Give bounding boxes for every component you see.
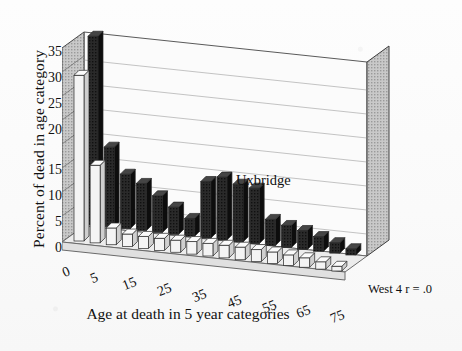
bar (298, 225, 313, 249)
y-axis-tick-labels: 35 30 25 20 15 10 5 0 (34, 0, 62, 351)
bar (201, 176, 216, 238)
bar (281, 220, 296, 247)
bar (187, 237, 202, 255)
bar (171, 235, 186, 252)
x-tick-15: 15 (120, 274, 139, 294)
x-tick-5: 5 (88, 270, 100, 287)
chart-svg (62, 28, 392, 290)
x-tick-35: 35 (190, 286, 209, 306)
series-label-uxbridge: Uxbridge (236, 172, 291, 189)
bar (249, 183, 264, 244)
bar (104, 142, 119, 227)
y-tick-10: 10 (36, 189, 62, 203)
bar (265, 214, 280, 245)
bar (120, 169, 135, 229)
x-tick-25: 25 (155, 280, 174, 300)
y-tick-0: 0 (36, 241, 62, 255)
bar (330, 238, 345, 253)
bar (122, 229, 137, 247)
plot-area (62, 28, 392, 290)
bar (155, 233, 170, 250)
figure-canvas: Percent of dead in age category 35 30 25… (0, 0, 462, 351)
bar (314, 232, 329, 252)
right-side-wall (367, 46, 389, 256)
y-tick-20: 20 (36, 123, 62, 137)
bar (138, 231, 153, 248)
y-tick-30: 30 (36, 71, 62, 85)
bar (74, 70, 89, 241)
bar (217, 172, 232, 240)
y-tick-5: 5 (36, 215, 62, 229)
bar (90, 160, 105, 243)
bar (185, 213, 200, 236)
bar (169, 202, 184, 234)
series-label-west4: West 4 r = .0 (368, 282, 432, 297)
y-tick-35: 35 (36, 45, 62, 59)
bar (106, 223, 121, 245)
bar (136, 178, 151, 230)
x-axis-tick-labels: 0 5 15 25 35 45 55 65 75 (62, 255, 402, 310)
x-tick-0: 0 (60, 264, 72, 281)
bar (203, 238, 218, 256)
x-axis-title: Age at death in 5 year categories (38, 305, 338, 323)
bar (152, 191, 167, 233)
y-tick-25: 25 (36, 97, 62, 111)
y-tick-15: 15 (36, 163, 62, 177)
